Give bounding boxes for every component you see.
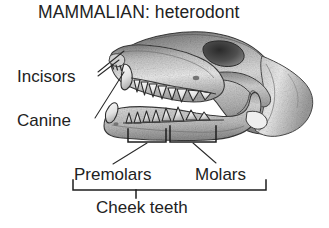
premolars-callout-line [113, 143, 147, 164]
label-incisors: Incisors [17, 68, 76, 85]
label-molars: Molars [195, 166, 246, 183]
label-premolars: Premolars [74, 166, 151, 183]
figure-title: MAMMALIAN: heterodont [38, 4, 240, 22]
label-cheek-teeth: Cheek teeth [96, 199, 188, 216]
upper-canine-tooth [121, 64, 132, 90]
figure-panel: MAMMALIAN: heterodont Incisors Canine Pr… [0, 0, 329, 228]
label-canine: Canine [17, 112, 71, 129]
molars-callout-line [193, 143, 216, 163]
